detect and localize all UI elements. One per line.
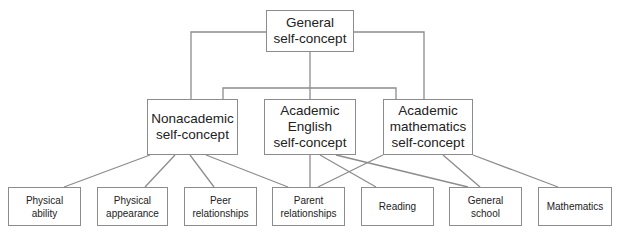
- node-peer-relationships: Peer relationships: [184, 187, 257, 226]
- node-general-school: General school: [449, 187, 522, 226]
- node-parent-relationships: Parent relationships: [272, 187, 345, 226]
- node-label: Peer relationships: [192, 194, 248, 220]
- edge-nonacademic-physical-appearance: [145, 155, 175, 187]
- node-physical-ability: Physical ability: [8, 187, 81, 226]
- node-nonacademic-self-concept: Nonacademic self-concept: [147, 99, 238, 155]
- node-label: Nonacademic self-concept: [151, 111, 234, 143]
- node-label: General self-concept: [274, 15, 347, 47]
- self-concept-hierarchy-diagram: General self-concept Nonacademic self-co…: [0, 0, 620, 234]
- node-label: Academic mathematics self-concept: [390, 103, 467, 151]
- edge-general-nonacademic: [191, 32, 266, 99]
- edge-nonacademic-peer: [190, 155, 214, 187]
- node-label: Physical appearance: [106, 194, 159, 220]
- edge-nonacademic-physical-ability: [64, 155, 150, 187]
- edge-mathematics-math: [473, 155, 558, 187]
- node-label: Parent relationships: [280, 194, 336, 220]
- node-label: General school: [468, 194, 504, 220]
- node-label: Physical ability: [26, 194, 63, 220]
- node-academic-english-self-concept: Academic English self-concept: [264, 99, 356, 155]
- node-reading: Reading: [361, 187, 434, 226]
- node-label: Mathematics: [547, 200, 604, 213]
- node-academic-mathematics-self-concept: Academic mathematics self-concept: [383, 99, 473, 155]
- edge-general-mathematics: [354, 32, 424, 99]
- node-mathematics: Mathematics: [538, 187, 612, 226]
- node-physical-appearance: Physical appearance: [97, 187, 168, 226]
- node-label: Academic English self-concept: [274, 103, 347, 151]
- edge-nonacademic-parent: [206, 155, 288, 187]
- node-label: Reading: [379, 200, 416, 213]
- node-general-self-concept: General self-concept: [266, 10, 354, 52]
